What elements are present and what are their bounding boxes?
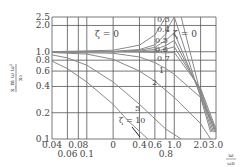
label-zeta-2: 2 <box>152 78 157 87</box>
x-axis-label-denominator: ωn <box>227 160 235 166</box>
y-tick-label: 0.6 <box>36 66 51 76</box>
label-zeta-0.5: 0.5 <box>155 36 168 45</box>
label-zeta-10: ζ = 10 <box>119 116 145 125</box>
y-tick-label: 1.0 <box>36 47 51 57</box>
label-zeta-0.3: 0.3 <box>157 15 170 24</box>
y-axis-ticks: 0.10.20.40.60.81.02.02.5 <box>36 12 51 144</box>
damping-response-chart: 0.10.20.40.60.81.02.02.5 0.040.060.080.1… <box>0 0 241 167</box>
x-tick-label: 2.0 <box>193 140 208 150</box>
y-tick-label: 0.2 <box>36 108 50 118</box>
x-tick-label: 0.1 <box>80 149 94 159</box>
x-tick-label: 3.0 <box>209 140 224 150</box>
x-tick-label: 1.0 <box>167 140 182 150</box>
x-tick-label: 0.06 <box>57 149 77 159</box>
y-tick-label: 0.4 <box>36 81 51 91</box>
y-tick-label: 2.5 <box>36 12 51 22</box>
x-axis-label-numerator: ω <box>229 151 234 158</box>
label-zeta-0.7: 0.7 <box>157 54 170 63</box>
label-zeta-1: 1 <box>159 66 164 75</box>
label-zeta-0.6: 0.6 <box>155 45 168 54</box>
x-tick-label: 0.4 <box>132 140 147 150</box>
x-axis-ticks: 0.040.060.080.100.40.60.81.02.03.0 <box>42 140 223 159</box>
x-tick-label: 0.8 <box>159 149 174 159</box>
label-zeta-0-right: ζ = 0 <box>173 29 197 39</box>
x-tick-label: 0 <box>110 140 116 150</box>
label-zeta-5: 5 <box>135 104 140 113</box>
label-zeta-0-left: ζ = 0 <box>95 29 119 39</box>
y-axis-label-numerator: x_m ω ω² <box>8 63 16 92</box>
y-axis-label: x_m ω ω² x₀ <box>8 63 23 92</box>
x-axis-label: ω ωn <box>226 151 236 166</box>
label-zeta-0.4: 0.4 <box>157 25 170 34</box>
curve--10 <box>52 61 148 139</box>
y-axis-label-denominator: x₀ <box>16 75 23 81</box>
chart-canvas: 0.10.20.40.60.81.02.02.5 0.040.060.080.1… <box>0 0 241 167</box>
